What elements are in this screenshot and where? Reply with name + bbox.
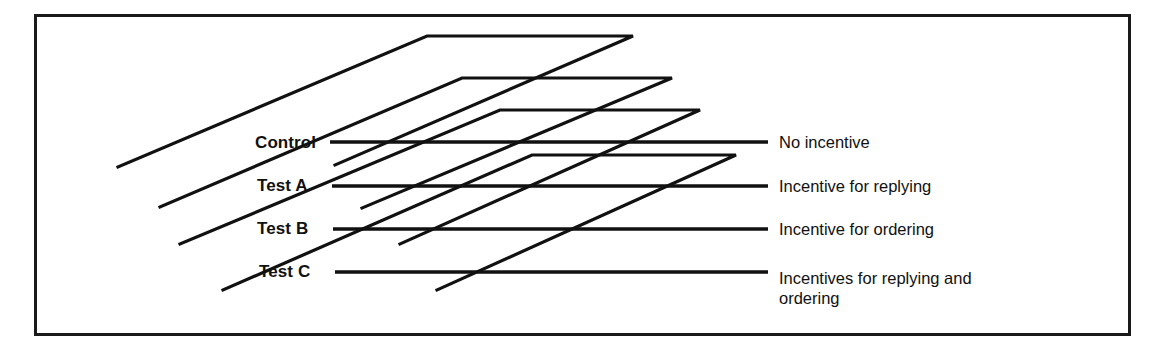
group-label-control: Control bbox=[255, 133, 316, 152]
group-label-test-a: Test A bbox=[257, 176, 308, 195]
diagram-canvas bbox=[0, 0, 1162, 361]
treatment-label-incentive-ordering: Incentive for ordering bbox=[779, 219, 934, 239]
figure-root: Control Test A Test B Test C No incentiv… bbox=[0, 0, 1162, 361]
treatment-label-incentive-replying-and-ordering: Incentives for replying and ordering bbox=[779, 268, 972, 308]
group-label-test-b: Test B bbox=[257, 219, 308, 238]
treatment-label-incentive-replying: Incentive for replying bbox=[779, 176, 931, 196]
treatment-label-no-incentive: No incentive bbox=[779, 132, 870, 152]
plane-control bbox=[118, 36, 633, 167]
group-label-test-c: Test C bbox=[259, 262, 310, 281]
